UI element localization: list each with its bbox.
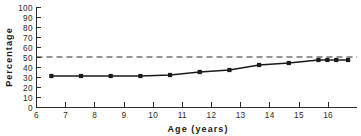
x-tick-label-7: 7 — [63, 111, 68, 120]
data-point-marker — [198, 70, 202, 74]
y-tick-label-50: 50 — [23, 54, 33, 63]
data-point-marker — [79, 74, 83, 78]
data-point-marker — [168, 73, 172, 77]
y-tick-label-40: 40 — [23, 64, 33, 73]
y-tick-label-70: 70 — [23, 34, 33, 43]
x-tick-label-10: 10 — [148, 111, 158, 120]
x-tick-label-15: 15 — [294, 111, 304, 120]
x-tick-label-8: 8 — [92, 111, 97, 120]
x-tick-label-9: 9 — [122, 111, 127, 120]
y-tick-label-80: 80 — [23, 24, 33, 33]
x-tick-label-16: 16 — [323, 111, 333, 120]
y-tick-label-60: 60 — [23, 44, 33, 53]
data-point-marker — [346, 58, 350, 62]
data-point-marker — [138, 74, 142, 78]
y-tick-label-20: 20 — [23, 84, 33, 93]
y-tick-label-30: 30 — [23, 74, 33, 83]
x-tick-marks — [37, 102, 329, 107]
chart-plot-area: Percentage 100 90 80 70 60 50 40 30 20 1… — [0, 0, 361, 136]
chart-figure: Percentage 100 90 80 70 60 50 40 30 20 1… — [0, 0, 361, 136]
y-axis-title: Percentage — [4, 27, 14, 87]
y-tick-label-10: 10 — [23, 94, 33, 103]
y-tick-label-0: 0 — [28, 104, 33, 113]
x-tick-label-13: 13 — [236, 111, 246, 120]
data-point-marker — [109, 74, 113, 78]
x-tick-label-12: 12 — [207, 111, 217, 120]
data-point-marker — [49, 74, 53, 78]
data-point-marker — [325, 58, 329, 62]
x-tick-label-11: 11 — [178, 111, 187, 120]
data-point-marker — [316, 58, 320, 62]
data-point-marker — [334, 58, 338, 62]
x-tick-label-14: 14 — [265, 111, 275, 120]
x-axis-title: Age (years) — [167, 124, 228, 134]
data-point-marker — [257, 63, 261, 67]
y-tick-label-90: 90 — [23, 14, 33, 23]
data-point-marker — [287, 61, 291, 65]
x-tick-label-6: 6 — [34, 111, 39, 120]
y-tick-label-100: 100 — [18, 4, 33, 13]
data-point-marker — [227, 68, 231, 72]
